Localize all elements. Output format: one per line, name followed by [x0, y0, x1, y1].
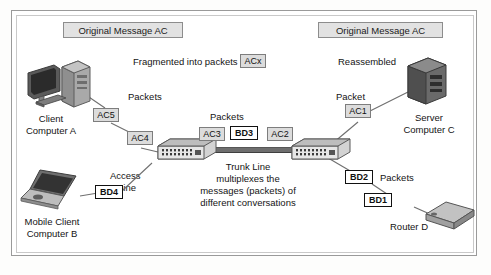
caption-trunk-line-4: different conversations — [168, 197, 328, 209]
server-tower-icon — [404, 56, 452, 108]
caption-trunk-line-2: multiplexes the — [178, 173, 318, 185]
packet-chip-bd2: BD2 — [345, 170, 373, 184]
packet-chip-ac4: AC4 — [127, 131, 153, 145]
packet-chip-acx: ACx — [240, 54, 266, 68]
caption-packets-left: Packets — [128, 91, 162, 103]
client-a-label-line2: Computer A — [8, 125, 94, 137]
packet-chip-ac1: AC1 — [345, 104, 371, 118]
caption-trunk-line-3: messages (packets) of — [168, 185, 328, 197]
caption-packets-center: Packets — [210, 111, 244, 123]
packet-chip-ac2: AC2 — [267, 127, 293, 141]
server-c-label-line2: Computer C — [388, 124, 470, 136]
router-d-label: Router D — [390, 221, 428, 233]
figure-canvas: Original Message AC Original Message AC … — [0, 0, 491, 275]
packet-chip-bd1: BD1 — [364, 193, 392, 207]
packet-chip-ac5: AC5 — [93, 108, 119, 122]
header-original-message-right: Original Message AC — [318, 22, 443, 38]
fragmented-into-packets-label: Fragmented into packets — [133, 56, 238, 68]
caption-packets-right: Packets — [380, 172, 414, 184]
laptop-computer-icon — [18, 168, 86, 214]
mobile-b-label-line2: Computer B — [4, 228, 100, 240]
reassembled-label: Reassembled — [338, 56, 396, 68]
server-c-label-line1: Server — [388, 112, 470, 124]
network-switch-icon-right — [290, 136, 352, 164]
mobile-b-label-line1: Mobile Client — [4, 216, 100, 228]
caption-packet-single: Packet — [336, 91, 365, 103]
desktop-computer-icon — [22, 57, 92, 109]
header-original-message-left: Original Message AC — [63, 22, 183, 38]
caption-access-line-1: Access — [110, 170, 141, 182]
packet-chip-bd3: BD3 — [230, 126, 258, 140]
client-a-label-line1: Client — [8, 113, 94, 125]
packet-chip-bd4: BD4 — [95, 185, 123, 199]
packet-chip-ac3: AC3 — [199, 127, 225, 141]
router-icon — [424, 200, 476, 234]
